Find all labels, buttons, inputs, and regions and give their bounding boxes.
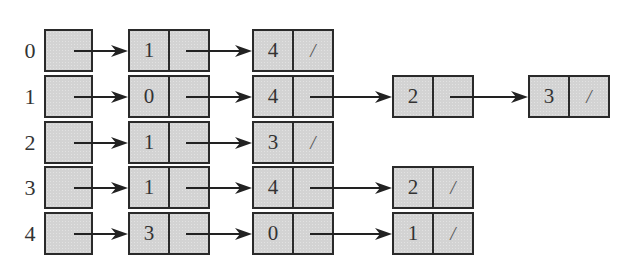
arrowhead-icon [375,228,392,240]
arrowhead-icon [111,45,128,57]
arrowhead-icon [511,91,528,103]
list-node: 0 [128,75,210,118]
vertex-index-label: 3 [20,166,40,209]
list-node: 3/ [528,75,610,118]
arrowhead-icon [111,137,128,149]
arrowhead-icon [235,137,252,149]
arrowhead-icon [375,91,392,103]
arrowhead-icon [111,228,128,240]
head-pointer-cell [44,75,93,118]
list-node: 4 [252,166,334,209]
next-pointer-cell [170,123,208,162]
vertex-index-label: 4 [20,212,40,255]
next-pointer-cell [170,31,208,70]
next-pointer-cell [294,77,332,116]
list-node: 3 [128,212,210,255]
null-pointer-cell: / [434,214,472,253]
node-value: 2 [394,77,434,116]
list-node: 1 [128,166,210,209]
list-node: 0 [252,212,334,255]
next-pointer-cell [170,168,208,207]
list-node: 2 [392,75,474,118]
arrowhead-icon [375,182,392,194]
node-value: 3 [530,77,570,116]
next-pointer-cell [170,77,208,116]
null-pointer-cell: / [294,31,332,70]
null-pointer-cell: / [570,77,608,116]
list-node: 4 [252,75,334,118]
head-pointer-cell [44,121,93,164]
arrowhead-icon [235,182,252,194]
vertex-index-label: 2 [20,121,40,164]
list-node: 2/ [392,166,474,209]
next-pointer-cell [434,77,472,116]
node-value: 2 [394,168,434,207]
next-pointer-cell [294,214,332,253]
node-value: 0 [254,214,294,253]
node-value: 4 [254,168,294,207]
head-pointer-cell [44,166,93,209]
null-pointer-cell: / [294,123,332,162]
arrowhead-icon [111,91,128,103]
arrowhead-icon [235,228,252,240]
head-pointer-cell [44,212,93,255]
vertex-index-label: 1 [20,75,40,118]
list-node: 1 [128,121,210,164]
node-value: 3 [254,123,294,162]
list-node: 4/ [252,29,334,72]
next-pointer-cell [170,214,208,253]
node-value: 1 [130,31,170,70]
node-value: 1 [130,123,170,162]
node-value: 4 [254,31,294,70]
arrowhead-icon [235,45,252,57]
list-node: 1/ [392,212,474,255]
null-pointer-cell: / [434,168,472,207]
list-node: 3/ [252,121,334,164]
node-value: 4 [254,77,294,116]
node-value: 3 [130,214,170,253]
vertex-index-label: 0 [20,29,40,72]
list-node: 1 [128,29,210,72]
node-value: 1 [394,214,434,253]
arrowhead-icon [111,182,128,194]
head-pointer-cell [44,29,93,72]
node-value: 0 [130,77,170,116]
arrowhead-icon [235,91,252,103]
node-value: 1 [130,168,170,207]
next-pointer-cell [294,168,332,207]
